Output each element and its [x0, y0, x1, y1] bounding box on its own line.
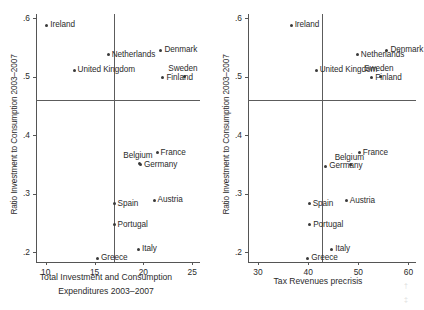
scan-artifact-1: †: [404, 282, 408, 289]
y-tick: [33, 135, 36, 136]
data-point: [159, 49, 162, 52]
data-point: [96, 257, 99, 260]
data-point-label: Ireland: [50, 20, 75, 29]
data-point: [306, 257, 309, 260]
x-tick: [143, 262, 144, 265]
reference-line-horizontal: [248, 100, 416, 101]
y-tick-label: .3: [220, 188, 242, 198]
data-point-label: Denmark: [390, 45, 423, 54]
y-tick-label: .6: [8, 13, 30, 23]
data-point-label: Finland: [166, 73, 193, 82]
y-tick-label: .5: [220, 71, 242, 81]
x-tick: [95, 262, 96, 265]
data-point: [153, 199, 156, 202]
y-axis-line: [248, 14, 249, 262]
data-point-label: Finland: [375, 73, 402, 82]
data-point-label: Sweden: [364, 64, 393, 73]
y-tick-label: .5: [8, 71, 30, 81]
y-tick-label: .3: [8, 188, 30, 198]
plot-area-right: .2.3.4.5.630405060IrelandNetherlandsDenm…: [248, 14, 416, 262]
data-point: [308, 223, 311, 226]
y-axis-line: [36, 14, 37, 262]
scan-artifact-2: ‡: [404, 296, 408, 303]
x-tick: [192, 262, 193, 265]
y-tick-label: .4: [8, 130, 30, 140]
x-tick: [408, 262, 409, 265]
data-point: [308, 202, 311, 205]
y-tick-label: .6: [220, 13, 242, 23]
data-point-label: Ireland: [295, 20, 320, 29]
y-tick: [245, 135, 248, 136]
data-point: [315, 69, 318, 72]
data-point-label: Italy: [142, 244, 157, 253]
data-point-label: Greece: [101, 253, 128, 262]
data-point-label: Netherlands: [112, 50, 156, 59]
data-point: [290, 24, 293, 27]
x-axis-title-left-line2: Expenditures 2003–2007: [0, 286, 212, 298]
panel-left: Ratio Investment to Consumption 2003–200…: [0, 0, 212, 310]
data-point-label: Portugal: [118, 220, 148, 229]
y-tick: [245, 77, 248, 78]
x-axis-title-left-line1: Total Investment and Consumption: [0, 272, 212, 284]
data-point-label: Belgium: [123, 151, 152, 160]
data-point-label: France: [161, 148, 186, 157]
data-point: [137, 248, 140, 251]
data-point-label: Sweden: [168, 64, 197, 73]
data-point: [113, 223, 116, 226]
data-point-label: Austria: [158, 195, 183, 204]
x-tick: [308, 262, 309, 265]
data-point: [330, 248, 333, 251]
data-point: [139, 163, 142, 166]
y-tick: [245, 252, 248, 253]
y-tick: [245, 194, 248, 195]
data-point-label: Austria: [350, 196, 375, 205]
data-point: [113, 202, 116, 205]
x-tick: [358, 262, 359, 265]
data-point-label: United Kingdom: [78, 65, 136, 74]
y-tick: [33, 18, 36, 19]
data-point: [370, 76, 373, 79]
data-point-label: Spain: [118, 199, 139, 208]
data-point-label: Portugal: [313, 220, 343, 229]
y-tick-label: .2: [8, 247, 30, 257]
y-tick-label: .2: [220, 247, 242, 257]
x-tick: [258, 262, 259, 265]
data-point: [345, 199, 348, 202]
data-point: [156, 151, 159, 154]
data-point-label: Spain: [313, 199, 334, 208]
y-tick-label: .4: [220, 130, 242, 140]
data-point-label: Italy: [335, 244, 350, 253]
y-tick: [33, 77, 36, 78]
plot-area-left: .2.3.4.5.610152025IrelandNetherlandsDenm…: [36, 14, 200, 262]
reference-line-horizontal: [36, 100, 200, 101]
y-tick: [245, 18, 248, 19]
data-point-label: Greece: [311, 253, 338, 262]
y-tick: [33, 194, 36, 195]
x-axis-title-right-line1: Tax Revenues precrisis: [212, 276, 424, 288]
figure-scatter-panels: Ratio Investment to Consumption 2003–200…: [0, 0, 424, 310]
panel-right: Ratio Investment to Consumption 2003–200…: [212, 0, 424, 310]
data-point: [107, 53, 110, 56]
data-point: [45, 24, 48, 27]
data-point-label: Germany: [144, 160, 177, 169]
data-point-label: France: [363, 148, 388, 157]
data-point: [356, 53, 359, 56]
data-point: [73, 69, 76, 72]
y-tick: [33, 252, 36, 253]
data-point-label: Denmark: [164, 45, 197, 54]
x-tick: [46, 262, 47, 265]
data-point-label: Germany: [329, 161, 362, 170]
data-point: [161, 76, 164, 79]
data-point: [324, 165, 327, 168]
